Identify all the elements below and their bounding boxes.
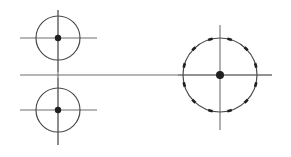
- large-circle-right-tick-dash: [227, 110, 231, 111]
- figure-background: [0, 0, 291, 157]
- technical-drawing-figure: [0, 0, 291, 157]
- large-circle-right-tick-dash: [184, 82, 185, 86]
- small-circle-bottom-center-dot: [55, 107, 61, 113]
- large-circle-right-tick-dash: [255, 63, 256, 67]
- small-circle-top-center-dot: [55, 35, 61, 41]
- large-circle-right-tick-dash: [184, 63, 185, 67]
- drawing-canvas: [0, 0, 291, 157]
- large-circle-right-center-dot: [216, 71, 224, 79]
- large-circle-right-tick-dash: [255, 82, 256, 86]
- large-circle-right-tick-dash: [208, 110, 212, 111]
- large-circle-right-tick-dash: [227, 39, 231, 40]
- large-circle-right-tick-dash: [208, 39, 212, 40]
